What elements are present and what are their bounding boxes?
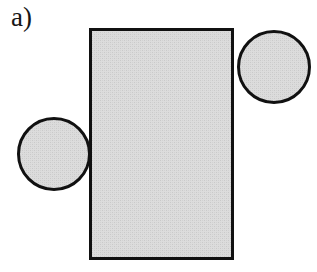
shape-group [19,30,310,259]
figure-panel: a) [0,0,317,272]
left-circle [19,119,90,190]
right-circle [239,32,310,103]
central-rectangle [91,30,233,259]
diagram-canvas [0,0,317,272]
